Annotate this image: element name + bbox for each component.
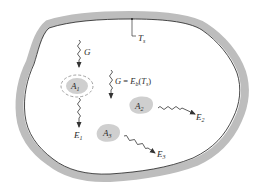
irradiation-label: G — [84, 47, 91, 57]
body-a2: A2 — [129, 97, 153, 114]
enclosure-wall — [19, 15, 244, 178]
blackbody-equation: G = Eb(Ts) — [115, 76, 151, 87]
enclosure-diagram: Ts G A1 E1 G = Eb(Ts) A2 E2 A3 E3 — [0, 0, 255, 189]
body-a3: A3 — [97, 124, 120, 142]
